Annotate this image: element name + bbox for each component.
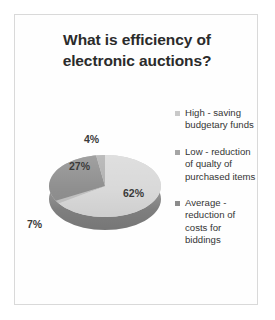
pie-gloss-overlay xyxy=(49,155,161,217)
legend-item-label: Average - reduction of costs for bidding… xyxy=(185,197,259,247)
square-marker-icon xyxy=(175,150,180,155)
pie-data-label-low: 27% xyxy=(69,160,90,172)
chart-title-line-1: What is efficiency of xyxy=(23,29,251,50)
chart-frame: What is efficiency of electronic auction… xyxy=(14,14,258,305)
pie-data-label-fourth: 4% xyxy=(84,133,99,145)
chart-title: What is efficiency of electronic auction… xyxy=(23,29,251,71)
square-marker-icon xyxy=(175,111,180,116)
legend-item-low[interactable]: Low - reduction of qualty of purchased i… xyxy=(175,146,259,183)
pie-graphic xyxy=(49,155,161,229)
pie-top-face xyxy=(49,155,161,217)
legend-item-high[interactable]: High - saving budgetary funds xyxy=(175,107,259,132)
pie-chart: 62% 27% 7% 4% xyxy=(25,133,173,251)
pie-data-label-average: 7% xyxy=(27,218,42,230)
square-marker-icon xyxy=(175,201,180,206)
legend-item-label: High - saving budgetary funds xyxy=(185,107,259,132)
chart-legend: High - saving budgetary funds Low - redu… xyxy=(175,107,259,261)
legend-item-average[interactable]: Average - reduction of costs for bidding… xyxy=(175,197,259,247)
pie-data-label-high: 62% xyxy=(123,187,144,199)
chart-title-line-2: electronic auctions? xyxy=(23,50,251,71)
legend-item-label: Low - reduction of qualty of purchased i… xyxy=(185,146,259,183)
